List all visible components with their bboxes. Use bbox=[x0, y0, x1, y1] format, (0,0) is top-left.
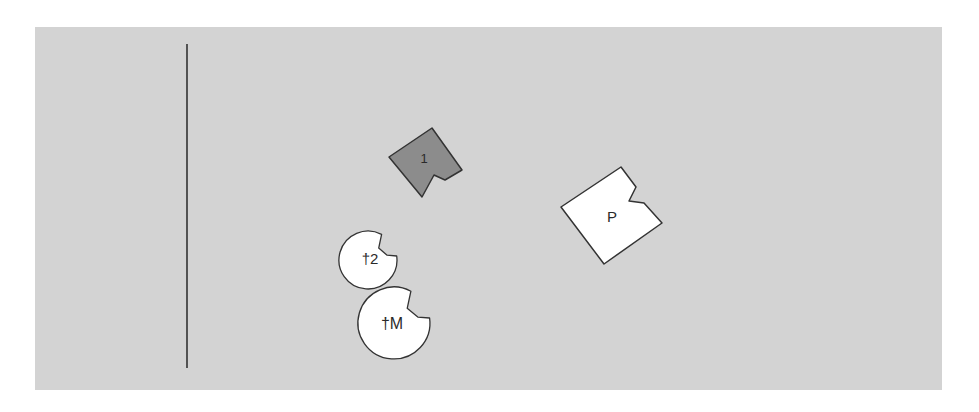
shape-dagger-m: †M bbox=[358, 287, 430, 359]
shape-label: 1 bbox=[420, 151, 427, 166]
diagram-canvas: 1 P †2 †M bbox=[0, 0, 979, 412]
shape-label: †M bbox=[381, 315, 403, 332]
shape-1: 1 bbox=[389, 128, 462, 197]
shape-label: P bbox=[607, 208, 617, 225]
shape-p: P bbox=[561, 167, 662, 264]
shape-dagger-2: †2 bbox=[339, 231, 397, 289]
shape-label: †2 bbox=[362, 250, 379, 267]
